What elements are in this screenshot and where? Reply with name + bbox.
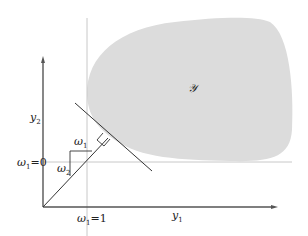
horizontal-reference-label: ω1=0 (17, 156, 47, 171)
slope-vertical-label: ω2 (57, 162, 70, 177)
normal-vector-line (43, 138, 108, 207)
diagram-canvas: 𝒴 y2 y1 ω1=0 ω1=1 ω1 ω2 (0, 0, 308, 236)
x-axis-arrow-icon (271, 205, 278, 209)
x-axis-label: y1 (171, 209, 183, 224)
y-axis-arrow-icon (41, 56, 45, 63)
vertical-reference-label: ω1=1 (77, 212, 107, 227)
slope-horizontal-label: ω1 (74, 135, 87, 150)
y-axis-label: y2 (29, 111, 41, 126)
